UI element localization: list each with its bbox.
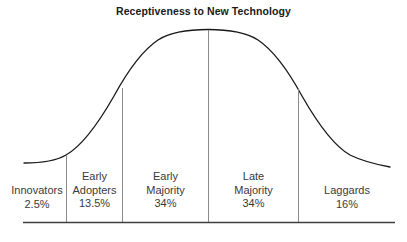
segment-label-early-majority: Early Majority 34% — [123, 170, 208, 211]
segment-label-early-adopters: Early Adopters 13.5% — [67, 170, 122, 211]
segment-name-early-adopters-line1: Early — [67, 170, 122, 184]
segment-name-early-majority-line2: Majority — [123, 184, 208, 198]
segment-label-innovators: Innovators 2.5% — [8, 184, 66, 211]
segment-name-laggards: Laggards — [299, 184, 395, 198]
segment-name-early-majority-line1: Early — [123, 170, 208, 184]
segment-value-laggards: 16% — [299, 198, 395, 212]
segment-value-late-majority: 34% — [209, 197, 298, 211]
bell-curve-path — [24, 30, 390, 168]
adoption-curve-figure: Receptiveness to New Technology Innovato… — [0, 0, 407, 242]
segment-value-early-majority: 34% — [123, 197, 208, 211]
segment-name-early-adopters-line2: Adopters — [67, 184, 122, 198]
segment-name-late-majority-line2: Majority — [209, 184, 298, 198]
segment-name-innovators: Innovators — [8, 184, 66, 198]
segment-value-early-adopters: 13.5% — [67, 197, 122, 211]
segment-label-laggards: Laggards 16% — [299, 184, 395, 211]
segment-name-late-majority-line1: Late — [209, 170, 298, 184]
segment-value-innovators: 2.5% — [8, 198, 66, 212]
segment-label-late-majority: Late Majority 34% — [209, 170, 298, 211]
